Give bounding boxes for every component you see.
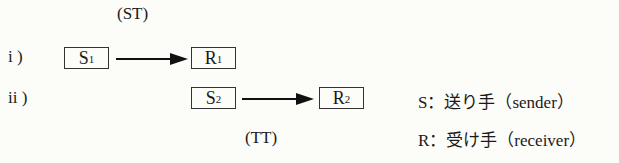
box-r1: R1 xyxy=(191,47,236,69)
box-s2-main: S xyxy=(206,88,216,109)
box-r2-sub: 2 xyxy=(345,93,351,105)
box-s1-main: S xyxy=(79,48,89,69)
box-s2: S2 xyxy=(191,87,236,109)
tt-label: (TT) xyxy=(245,128,277,148)
box-r1-main: R xyxy=(205,48,217,69)
st-label: (ST) xyxy=(117,4,148,24)
box-r2: R2 xyxy=(319,87,364,109)
box-s2-sub: 2 xyxy=(216,93,222,105)
row-label-i: i ) xyxy=(8,47,23,67)
box-r1-sub: 1 xyxy=(217,53,223,65)
box-r2-main: R xyxy=(333,88,345,109)
box-s1-sub: 1 xyxy=(89,53,95,65)
row-label-ii: ii ) xyxy=(8,88,27,108)
legend-sender: S：送り手（sender） xyxy=(418,88,574,113)
legend-receiver: R：受け手（receiver） xyxy=(418,126,586,151)
arrow-right-icon xyxy=(242,92,314,106)
box-s1: S1 xyxy=(64,47,109,69)
arrow-right-icon xyxy=(116,52,188,66)
